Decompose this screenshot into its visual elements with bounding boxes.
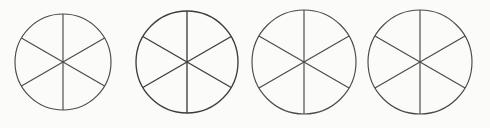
six-sector-circles-figure [0, 0, 490, 128]
sector-circle [368, 10, 472, 114]
sector-circle [15, 14, 111, 110]
sector-circle [252, 10, 356, 114]
sector-circle [136, 11, 238, 113]
figure-canvas [0, 0, 490, 128]
